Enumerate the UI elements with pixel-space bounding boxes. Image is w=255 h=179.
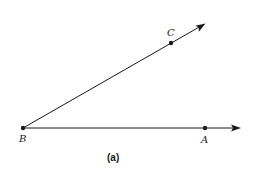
arrowhead-bc-icon	[195, 24, 205, 32]
figure-caption: (a)	[107, 152, 119, 163]
point-b	[21, 126, 25, 130]
label-b: B	[18, 133, 26, 144]
point-a	[203, 126, 207, 130]
label-a: A	[200, 134, 208, 145]
ray-bc	[23, 26, 201, 128]
label-c: C	[167, 27, 175, 38]
point-c	[169, 41, 173, 45]
angle-diagram: B A C (a)	[0, 0, 255, 179]
